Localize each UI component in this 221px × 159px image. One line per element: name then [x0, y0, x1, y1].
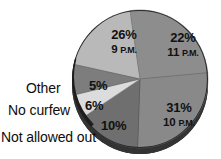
slice-label-9pm: 26% 9 P.M.: [96, 28, 152, 55]
pie-chart: 26% 9 P.M. 22% 11 P.M. 31% 10 P.M. 5% 6%…: [0, 0, 221, 159]
slice-percent-9pm: 26%: [96, 28, 152, 42]
slice-category-9pm: 9 P.M.: [96, 43, 152, 56]
slice-category-10pm: 10 P.M.: [150, 116, 208, 129]
slice-category-11pm: 11 P.M.: [155, 46, 211, 59]
slice-label-11pm: 22% 11 P.M.: [155, 31, 211, 58]
category-label-other: Other: [26, 80, 61, 96]
slice-percent-no-curfew: 6%: [85, 98, 103, 113]
slice-percent-other: 5%: [89, 78, 107, 93]
slice-percent-not-allowed-out: 10%: [101, 118, 126, 133]
slice-percent-11pm: 22%: [155, 31, 211, 45]
slice-label-10pm: 31% 10 P.M.: [150, 101, 208, 128]
slice-percent-10pm: 31%: [150, 101, 208, 115]
category-label-no-curfew: No curfew: [8, 102, 70, 118]
category-label-not-allowed-out: Not allowed out: [1, 129, 96, 145]
